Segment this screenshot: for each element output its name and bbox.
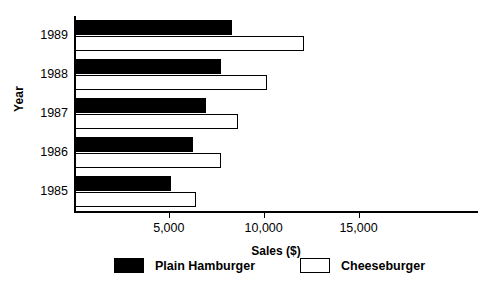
legend-label-cheeseburger: Cheeseburger [341, 259, 425, 273]
x-tick-15000 [359, 211, 361, 218]
bar-chart: Year 19851986198719881989 5,00010,00015,… [0, 0, 492, 293]
y-tick-label-1989: 1989 [22, 28, 68, 42]
x-tick-label-15000: 15,000 [339, 221, 377, 235]
y-tick-label-1986: 1986 [22, 145, 68, 159]
x-tick-label-10000: 10,000 [245, 221, 283, 235]
legend-entry-cheeseburger: Cheeseburger [300, 258, 425, 273]
chart-legend: Plain Hamburger Cheeseburger [0, 258, 492, 282]
bar-1985-plain-hamburger [75, 176, 171, 191]
bar-1987-plain-hamburger [75, 98, 206, 113]
legend-swatch-plain-hamburger [114, 258, 144, 273]
x-tick-5000 [169, 211, 171, 218]
bar-1989-plain-hamburger [75, 20, 232, 35]
bar-1988-cheeseburger [75, 75, 267, 90]
bar-1988-plain-hamburger [75, 59, 221, 74]
x-tick-10000 [264, 211, 266, 218]
legend-label-plain-hamburger: Plain Hamburger [155, 259, 255, 273]
legend-entry-plain-hamburger: Plain Hamburger [114, 258, 255, 273]
bar-1987-cheeseburger [75, 114, 238, 129]
x-axis-line [74, 211, 478, 213]
bar-1989-cheeseburger [75, 36, 304, 51]
legend-swatch-cheeseburger [300, 258, 330, 273]
x-tick-label-5000: 5,000 [153, 221, 184, 235]
y-axis-tick-labels: 19851986198719881989 [22, 0, 68, 293]
bar-1985-cheeseburger [75, 192, 196, 207]
y-tick-label-1988: 1988 [22, 67, 68, 81]
x-axis-title: Sales ($) [74, 244, 478, 258]
plot-area: 5,00010,00015,000 Sales ($) [74, 16, 478, 211]
bar-1986-cheeseburger [75, 153, 221, 168]
y-tick-label-1987: 1987 [22, 106, 68, 120]
y-tick-label-1985: 1985 [22, 184, 68, 198]
bar-1986-plain-hamburger [75, 137, 193, 152]
